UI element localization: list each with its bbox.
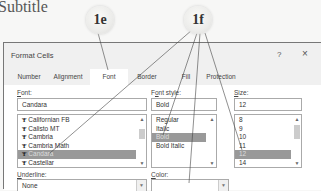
scrollbar-thumb[interactable] <box>139 129 145 139</box>
font-list[interactable]: ŦCalifornian FB ŦCalisto MT ŦCambria ŦCa… <box>17 114 147 168</box>
font-style-scrollbar[interactable]: ▲ ▼ <box>208 115 216 167</box>
size-option-9[interactable]: 9 <box>235 125 301 134</box>
underline-label: Underline: <box>17 171 47 178</box>
tab-alignment[interactable]: Alignment <box>48 69 88 85</box>
format-cells-dialog: Format Cells ? × Number Alignment Font B… <box>3 42 321 189</box>
size-option-12[interactable]: 12 <box>235 150 291 159</box>
font-option-castellar[interactable]: ŦCastellar <box>18 159 146 168</box>
font-option-californian-fb[interactable]: ŦCalifornian FB <box>18 116 146 125</box>
font-list-scrollbar[interactable]: ▲ ▼ <box>138 115 146 167</box>
font-tab-panel: Font: Candara ŦCalifornian FB ŦCalisto M… <box>4 85 321 190</box>
style-option-regular[interactable]: Regular <box>152 116 216 125</box>
scroll-down-icon[interactable]: ▼ <box>293 159 301 167</box>
size-option-8[interactable]: 8 <box>235 116 301 125</box>
scrollbar-thumb[interactable] <box>294 125 300 139</box>
font-option-calisto-mt[interactable]: ŦCalisto MT <box>18 125 146 134</box>
underline-select[interactable]: None ▼ <box>17 179 147 191</box>
font-style-label: Font style: <box>151 89 181 96</box>
truetype-font-icon: Ŧ <box>22 133 26 140</box>
underline-value: None <box>22 182 38 189</box>
scroll-down-icon[interactable]: ▼ <box>208 159 216 167</box>
font-option-candara[interactable]: ŦCandara <box>18 150 136 159</box>
scroll-up-icon[interactable]: ▲ <box>293 115 301 123</box>
tab-protection[interactable]: Protection <box>202 69 240 85</box>
style-option-bold-italic[interactable]: Bold Italic <box>152 142 216 151</box>
scroll-up-icon[interactable]: ▲ <box>138 115 146 123</box>
color-label: Color: <box>151 171 168 178</box>
callout-1f: 1f <box>184 6 212 34</box>
size-option-14[interactable]: 14 <box>235 159 301 168</box>
font-style-input[interactable]: Bold <box>151 98 217 111</box>
style-option-bold[interactable]: Bold <box>152 133 206 142</box>
font-option-cambria[interactable]: ŦCambria <box>18 133 146 142</box>
size-input[interactable]: 12 <box>234 98 302 111</box>
dialog-title: Format Cells <box>11 51 54 60</box>
font-label: Font: <box>17 89 32 96</box>
style-option-italic[interactable]: Italic <box>152 125 216 134</box>
size-list-scrollbar[interactable]: ▲ ▼ <box>293 115 301 167</box>
chevron-down-icon[interactable]: ▼ <box>218 180 228 191</box>
tab-fill[interactable]: Fill <box>176 69 196 85</box>
size-list[interactable]: 8 9 10 11 12 14 ▲ ▼ <box>234 114 302 168</box>
page-subtitle: Subtitle <box>0 0 48 16</box>
size-option-10[interactable]: 10 <box>235 133 301 142</box>
chevron-down-icon[interactable]: ▼ <box>136 180 146 191</box>
color-select[interactable]: ▼ <box>151 179 229 191</box>
close-button[interactable]: × <box>302 48 308 59</box>
truetype-font-icon: Ŧ <box>22 125 26 132</box>
truetype-font-icon: Ŧ <box>22 142 26 149</box>
scroll-down-icon[interactable]: ▼ <box>138 159 146 167</box>
tab-bar: Number Alignment Font Border Fill Protec… <box>4 69 321 85</box>
callout-1e: 1e <box>86 6 114 34</box>
truetype-font-icon: Ŧ <box>22 116 26 123</box>
truetype-font-icon: Ŧ <box>22 150 26 157</box>
tab-border[interactable]: Border <box>132 69 162 85</box>
tab-number[interactable]: Number <box>14 69 44 85</box>
help-button[interactable]: ? <box>277 50 281 59</box>
truetype-font-icon: Ŧ <box>22 159 26 166</box>
scroll-up-icon[interactable]: ▲ <box>208 115 216 123</box>
size-label: Size: <box>234 89 248 96</box>
font-option-cambria-math[interactable]: ŦCambria Math <box>18 142 146 151</box>
tab-font[interactable]: Font <box>90 69 128 85</box>
font-input[interactable]: Candara <box>17 98 147 111</box>
size-option-11[interactable]: 11 <box>235 142 301 151</box>
font-style-list[interactable]: Regular Italic Bold Bold Italic ▲ ▼ <box>151 114 217 168</box>
